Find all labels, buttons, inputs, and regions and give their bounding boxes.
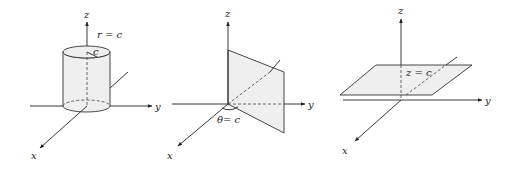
y-axis-label: y — [154, 101, 161, 112]
x-axis-label: x — [31, 150, 37, 161]
x-axis-label: x — [167, 150, 173, 161]
z-axis-label: z — [83, 9, 90, 20]
surface-label: z = c — [405, 67, 432, 78]
coordinate-surfaces-figure: z y x r = c c z y x θ= c z y x z = c — [0, 0, 509, 171]
z-axis-label: z — [397, 5, 404, 16]
x-axis — [178, 104, 228, 146]
x-axis-back — [446, 57, 457, 65]
x-axis-label: x — [342, 145, 348, 156]
x-axis — [355, 100, 401, 141]
radius-label: c — [93, 46, 99, 57]
cylinder-top — [63, 46, 110, 58]
panel-horizontal-plane: z y x z = c — [340, 5, 491, 156]
z-axis-label: z — [224, 8, 231, 19]
cylinder-body — [63, 52, 110, 112]
y-axis-label: y — [484, 95, 491, 106]
panel-half-plane: z y x θ= c — [167, 8, 314, 161]
y-axis-label: y — [307, 99, 314, 110]
x-axis-back — [110, 72, 128, 88]
surface-label: θ= c — [217, 114, 241, 125]
panel-cylinder: z y x r = c c — [30, 9, 161, 161]
x-axis — [40, 106, 87, 148]
surface-label: r = c — [97, 29, 123, 40]
